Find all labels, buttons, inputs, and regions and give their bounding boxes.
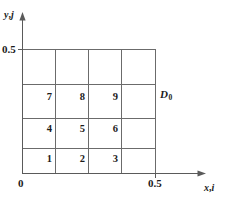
origin-label: 0	[18, 178, 24, 189]
arrow-right-icon	[198, 170, 207, 176]
cell-index-9: 9	[89, 92, 118, 103]
y-axis-label: y,j	[4, 10, 14, 20]
cell-index-8: 8	[56, 92, 85, 103]
y-axis-tick-label-0.5: 0.5	[2, 44, 16, 55]
cell-index-1: 1	[23, 154, 52, 165]
x-axis-index: i	[212, 182, 215, 193]
arrow-up-icon	[19, 12, 25, 21]
figure-canvas: y,j x,i 0.5 0 0.5 D0 7 8 9 4 5 6 1 2 3	[0, 0, 226, 201]
y-axis-index: j	[11, 9, 14, 20]
domain-label-subscript: 0	[168, 93, 172, 102]
x-axis-tick-label-0.5: 0.5	[148, 178, 162, 189]
cell-index-3: 3	[89, 154, 118, 165]
domain-label-letter: D	[160, 88, 168, 100]
cell-index-4: 4	[23, 124, 52, 135]
domain-label: D0	[160, 89, 172, 100]
x-axis-label: x,i	[204, 183, 214, 193]
cell-index-6: 6	[89, 124, 118, 135]
cell-index-2: 2	[56, 154, 85, 165]
cell-index-7: 7	[23, 92, 52, 103]
cell-index-5: 5	[56, 124, 85, 135]
